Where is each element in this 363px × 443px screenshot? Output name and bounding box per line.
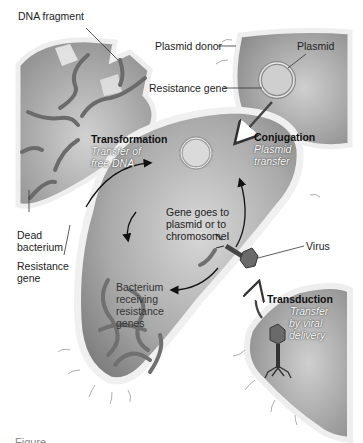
label-plasmid: Plasmid xyxy=(297,40,334,52)
label-resistance-gene-top: Resistance gene xyxy=(149,82,227,94)
label-transduction-desc-2: by viral xyxy=(289,317,322,329)
label-dna-fragment: DNA fragment xyxy=(18,10,84,22)
label-transformation: Transformation xyxy=(91,133,167,145)
label-dead-bacterium-1: Dead xyxy=(17,229,42,241)
label-conjugation: Conjugation xyxy=(254,131,315,143)
label-gene-goes-1: Gene goes to xyxy=(166,206,229,218)
label-resistance-gene-left-2: gene xyxy=(17,272,40,284)
label-transduction-desc-3: delivery xyxy=(289,329,325,341)
label-virus: Virus xyxy=(306,240,330,252)
label-receiving-1: Bacterium xyxy=(116,281,163,293)
label-transduction: Transduction xyxy=(267,293,333,305)
figure-caption: Figure xyxy=(15,436,46,443)
label-plasmid-donor: Plasmid donor xyxy=(155,40,222,52)
label-gene-goes-2: plasmid or to xyxy=(166,218,226,230)
label-transduction-desc-1: Transfer xyxy=(290,305,328,317)
label-resistance-gene-left-1: Resistance xyxy=(17,260,69,272)
label-receiving-2: receiving xyxy=(116,293,158,305)
label-conjugation-desc-2: transfer xyxy=(254,155,290,167)
label-conjugation-desc-1: Plasmid xyxy=(254,143,291,155)
label-dead-bacterium-2: bacterium xyxy=(17,241,63,253)
label-receiving-3: resistance xyxy=(116,305,164,317)
diagram-canvas: DNA fragment Plasmid donor Plasmid Resis… xyxy=(0,0,363,443)
label-transformation-desc-1: Transfer of xyxy=(91,145,141,157)
label-transformation-desc-2: free DNA xyxy=(91,157,134,169)
label-gene-goes-3: chromosome xyxy=(166,230,227,242)
label-receiving-4: genes xyxy=(116,317,145,329)
